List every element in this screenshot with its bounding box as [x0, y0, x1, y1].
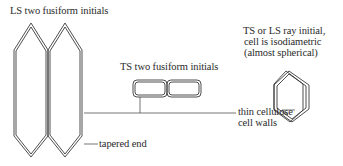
ls-fusiform-cell-right [48, 23, 82, 157]
label-ray-initial-line1: TS or LS ray initial, [243, 25, 325, 36]
label-ray-initial-line3: (almost spherical) [244, 47, 318, 58]
label-thin-walls-line1: thin cellulose [238, 106, 293, 117]
ts-fusiform-cell-left [133, 80, 167, 97]
ls-fusiform-cell-left [14, 23, 48, 157]
label-tapered-end: tapered end [99, 138, 147, 149]
label-ray-initial-line2: cell is isodiametric [244, 36, 321, 47]
label-ls-fusiform: LS two fusiform initials [10, 5, 108, 16]
ts-fusiform-cell-right [167, 80, 201, 97]
label-thin-walls-line2: cell walls [238, 117, 277, 128]
label-ts-fusiform: TS two fusiform initials [120, 61, 218, 72]
